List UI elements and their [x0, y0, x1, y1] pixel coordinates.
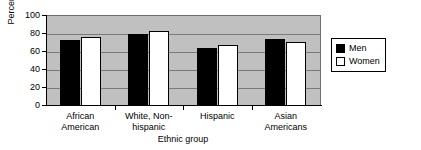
bar-chart-figure: Percent 100806040200 Ethnic group MenWom… — [0, 0, 421, 150]
x-axis-tick-mark — [183, 106, 184, 110]
bar-group — [183, 16, 252, 106]
bar-group — [252, 16, 321, 106]
bar-women — [149, 31, 169, 106]
bar-men — [128, 34, 148, 106]
plot-area — [46, 15, 321, 106]
bar-men — [265, 39, 285, 107]
bar-group — [115, 16, 184, 106]
bar-women — [286, 42, 306, 106]
y-axis-line — [46, 15, 47, 106]
x-axis-line — [46, 105, 322, 106]
legend-label: Women — [349, 56, 380, 67]
y-axis-tick-mark — [42, 105, 46, 106]
y-axis-tick-mark — [42, 69, 46, 70]
legend-item-men: Men — [336, 42, 380, 55]
legend-item-women: Women — [336, 55, 380, 68]
legend: MenWomen — [331, 38, 386, 72]
bar-men — [60, 40, 80, 106]
legend-swatch-men-icon — [336, 44, 345, 53]
y-axis-tick-mark — [42, 51, 46, 52]
x-axis-title: Ethnic group — [46, 134, 320, 145]
x-axis-category-label: Asian Americans — [244, 111, 329, 133]
y-axis-tick-label: 100 — [18, 10, 40, 20]
y-axis-title: Percent — [4, 0, 18, 42]
y-axis-tick-mark — [42, 15, 46, 16]
bar-men — [197, 48, 217, 107]
y-axis-tick-mark — [42, 87, 46, 88]
y-axis-tick-label: 60 — [18, 46, 40, 56]
bar-women — [218, 45, 238, 106]
x-axis-tick-mark — [252, 106, 253, 110]
y-axis-tick-label: 20 — [18, 82, 40, 92]
y-axis-tick-label: 0 — [18, 100, 40, 110]
y-axis-tick-label: 80 — [18, 28, 40, 38]
legend-swatch-women-icon — [336, 57, 345, 66]
legend-label: Men — [349, 43, 367, 54]
y-axis-tick-labels: 100806040200 — [18, 15, 40, 105]
y-axis-tick-label: 40 — [18, 64, 40, 74]
bar-women — [81, 37, 101, 106]
y-axis-tick-mark — [42, 33, 46, 34]
bar-group — [46, 16, 115, 106]
x-axis-tick-mark — [115, 106, 116, 110]
